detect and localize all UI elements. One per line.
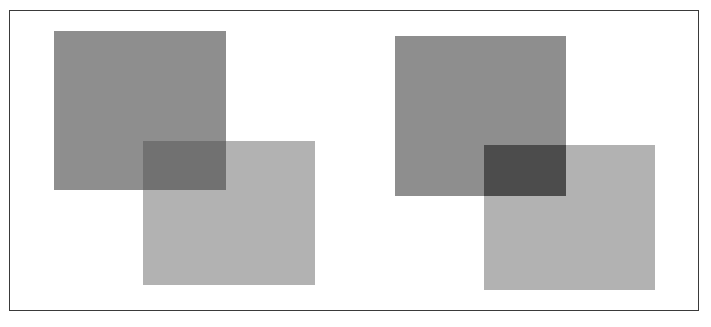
right-panel-overlap <box>484 145 566 196</box>
left-panel-overlap <box>143 141 226 190</box>
